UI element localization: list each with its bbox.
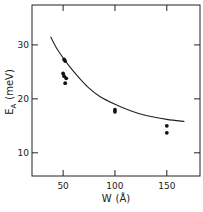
x-axis-label: W(Å) <box>102 192 131 204</box>
axis-ticks: 50100150102030 <box>18 5 200 191</box>
y-tick-label: 30 <box>18 40 30 50</box>
data-point <box>63 81 67 85</box>
theory-line <box>51 37 185 122</box>
theory-curve <box>51 37 185 122</box>
x-tick-label: 150 <box>158 181 175 191</box>
x-tick-label: 100 <box>106 181 123 191</box>
data-points <box>61 58 169 135</box>
x-tick-label: 50 <box>57 181 69 191</box>
y-tick-label: 20 <box>18 94 30 104</box>
data-point <box>165 131 169 135</box>
data-point <box>63 59 67 63</box>
data-point <box>64 76 68 80</box>
chart: 50100150102030 W(Å) EA(meV) <box>0 0 203 212</box>
data-point <box>165 124 169 128</box>
y-axis-label: EA(meV) <box>4 69 18 115</box>
y-tick-label: 10 <box>18 148 30 158</box>
data-point <box>113 110 117 114</box>
plot-frame <box>32 5 200 176</box>
